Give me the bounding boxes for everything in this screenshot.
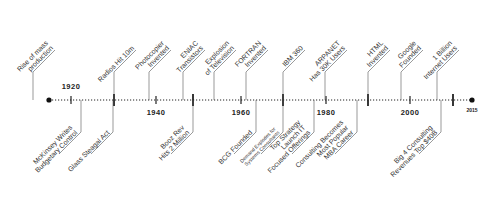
top-event-label: Rise of massproduction [16, 39, 56, 79]
year-label: 1920 [62, 82, 81, 91]
year-label: 1980 [317, 108, 336, 117]
start-dot [46, 97, 51, 102]
top-event-text: Radios Hit 10m [97, 44, 136, 83]
timeline-canvas: 201519201940196019802000Rise of massprod… [0, 0, 504, 200]
year-label: 2000 [401, 108, 420, 117]
bottom-event-text: Big 4 Consulting [392, 124, 434, 166]
top-event-label: IBM 360 [281, 44, 304, 67]
top-event-text: IBM 360 [281, 44, 304, 67]
bottom-event-label: Booz RevHits 2 Million [152, 123, 190, 161]
top-event-label: GoogleFounded [393, 39, 423, 69]
end-dot [469, 97, 474, 102]
top-event-label: Radios Hit 10m [97, 44, 136, 83]
top-event-label: 1 BillionInternet Users [417, 39, 458, 80]
top-event-label: HTMLInvented [360, 39, 389, 68]
timeline-diagram: 201519201940196019802000Rise of massprod… [0, 0, 504, 200]
top-event-label: FORTRANInvented [233, 39, 267, 73]
top-event-label: PhotocopierInvented [134, 39, 171, 76]
year-label: 1940 [147, 108, 166, 117]
bottom-event-label: Big 4 ConsultingRevenues Top $40B [384, 123, 439, 178]
top-event-label: Explosionof Television [198, 39, 235, 76]
bottom-event-text: Revenues Top $40B [389, 129, 439, 179]
end-year-label: 2015 [466, 107, 477, 113]
top-event-label: ENIACTransistors [170, 39, 205, 74]
year-label: 1960 [232, 108, 251, 117]
